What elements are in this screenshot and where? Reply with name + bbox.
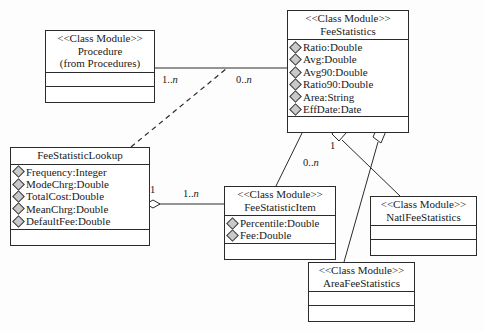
attribute-row: TotalCost:Double [11,190,149,202]
association-feestatistics-feestatisticitem [276,127,305,186]
class-header-feestatisticlookup: FeeStatisticLookup [11,148,149,164]
attributes-compartment-feestatisticlookup: Frequency:Integer ModeChrg:Double TotalC… [11,165,149,229]
attribute-row: ModeChrg:Double [11,178,149,190]
class-box-natlfeestatistics[interactable]: <<Class Module>> NatlFeeStatistics [370,196,477,256]
attribute-diamond-icon [289,66,302,79]
multiplicity-feestatistics-one: 1 [330,140,335,151]
class-box-feestatistics[interactable]: <<Class Module>> FeeStatistics Ratio:Dou… [287,10,409,133]
attribute-row: MeanChrg:Double [11,203,149,215]
attribute-label: Area:String [303,91,354,103]
operations-compartment-feestatisticitem [225,244,335,259]
attribute-diamond-icon [12,178,25,191]
attribute-label: EffDate:Date [303,103,361,115]
multiplicity-item-many: 1..n [183,188,199,199]
attribute-label: Ratio:Double [303,41,362,53]
attribute-row: Ratio90:Double [288,78,408,90]
attribute-diamond-icon [226,217,239,230]
attribute-row: Ratio:Double [288,41,408,53]
attributes-compartment-feestatistics: Ratio:Double Avg:Double Avg90:Double Rat… [288,40,408,116]
class-box-feestatisticitem[interactable]: <<Class Module>> FeeStatisticItem Percen… [224,186,336,260]
attribute-row: Fee:Double [225,229,335,241]
multiplicity-feestatistics-side: 0..n [236,74,252,85]
attribute-label: Frequency:Integer [26,166,107,178]
attribute-diamond-icon [289,90,302,103]
class-header-areafeestatistics: <<Class Module>> AreaFeeStatistics [309,263,414,291]
class-stereotype: <<Class Module>> [48,32,152,45]
attributes-compartment-areafeestatistics [309,292,414,305]
class-header-feestatistics: <<Class Module>> FeeStatistics [288,11,408,39]
class-name: FeeStatistics [290,25,406,38]
class-stereotype: <<Class Module>> [227,188,333,201]
class-stereotype: <<Class Module>> [311,264,412,277]
attributes-compartment-natlfeestatistics [371,226,476,239]
attribute-label: ModeChrg:Double [26,178,109,190]
operations-compartment-areafeestatistics [309,306,414,321]
attribute-label: Fee:Double [240,229,291,241]
attribute-row: Percentile:Double [225,217,335,229]
attribute-label: DefaultFee:Double [26,215,110,227]
attribute-diamond-icon [289,103,302,116]
attribute-row: Avg90:Double [288,66,408,78]
class-header-natlfeestatistics: <<Class Module>> NatlFeeStatistics [371,197,476,225]
attribute-diamond-icon [289,53,302,66]
class-stereotype: <<Class Module>> [290,12,406,25]
attribute-diamond-icon [289,41,302,54]
attribute-diamond-icon [289,78,302,91]
multiplicity-feestatisticitem-side: 0..n [303,157,319,168]
multiplicity-lookup-one: 1 [150,184,155,195]
multiplicity-procedure-side: 1..n [162,74,178,85]
operations-compartment-feestatistics [288,117,408,132]
attribute-row: Avg:Double [288,53,408,65]
class-box-feestatisticlookup[interactable]: FeeStatisticLookup Frequency:Integer Mod… [10,147,150,246]
class-header-feestatisticitem: <<Class Module>> FeeStatisticItem [225,187,335,215]
attribute-label: Ratio90:Double [303,78,373,90]
attributes-compartment-feestatisticitem: Percentile:Double Fee:Double [225,216,335,243]
attribute-row: Frequency:Integer [11,166,149,178]
class-name: NatlFeeStatistics [373,211,474,224]
attribute-label: TotalCost:Double [26,190,104,202]
class-origin-package: (from Procedures) [48,57,152,70]
class-box-areafeestatistics[interactable]: <<Class Module>> AreaFeeStatistics [308,262,415,322]
class-name: FeeStatisticItem [227,201,333,214]
attribute-diamond-icon [226,229,239,242]
attribute-label: Avg:Double [303,53,357,65]
attribute-row: EffDate:Date [288,103,408,115]
operations-compartment-feestatisticlookup [11,230,149,245]
class-name: Procedure [48,45,152,58]
operations-compartment-natlfeestatistics [371,240,476,255]
attribute-diamond-icon [12,215,25,228]
attribute-label: Percentile:Double [240,217,319,229]
class-header-procedure: <<Class Module>> Procedure (from Procedu… [46,31,154,72]
generalization-natl-line [342,140,400,196]
class-box-procedure[interactable]: <<Class Module>> Procedure (from Procedu… [45,30,155,103]
operations-compartment-procedure [46,87,154,102]
attribute-diamond-icon [12,165,25,178]
class-stereotype: <<Class Module>> [373,198,474,211]
class-name: FeeStatisticLookup [13,149,147,162]
attribute-label: Avg90:Double [303,66,368,78]
attribute-diamond-icon [12,203,25,216]
attributes-compartment-procedure [46,73,154,86]
attribute-row: DefaultFee:Double [11,215,149,227]
attribute-diamond-icon [12,190,25,203]
class-name: AreaFeeStatistics [311,277,412,290]
attribute-label: MeanChrg:Double [26,203,108,215]
attribute-row: Area:String [288,91,408,103]
uml-class-diagram-canvas: <<Class Module>> Procedure (from Procedu… [0,0,484,332]
